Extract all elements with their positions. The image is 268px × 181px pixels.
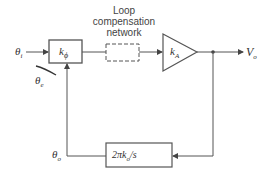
output-voltage-label: Vo bbox=[246, 46, 257, 61]
error-theta-label: θe bbox=[35, 75, 44, 89]
vco-label: 2πko/s bbox=[112, 150, 137, 163]
return-path bbox=[67, 64, 106, 156]
input-theta-label: θi bbox=[15, 46, 22, 60]
amplifier-label: kA bbox=[170, 46, 179, 60]
loop-compensation-block bbox=[106, 44, 139, 61]
feedback-theta-label: θo bbox=[52, 149, 61, 163]
amplifier-block bbox=[163, 34, 197, 71]
feedback-path bbox=[173, 52, 213, 156]
loop-compensation-caption: Loop compensation network bbox=[88, 5, 160, 38]
phase-detector-label: kϕ bbox=[59, 46, 68, 60]
